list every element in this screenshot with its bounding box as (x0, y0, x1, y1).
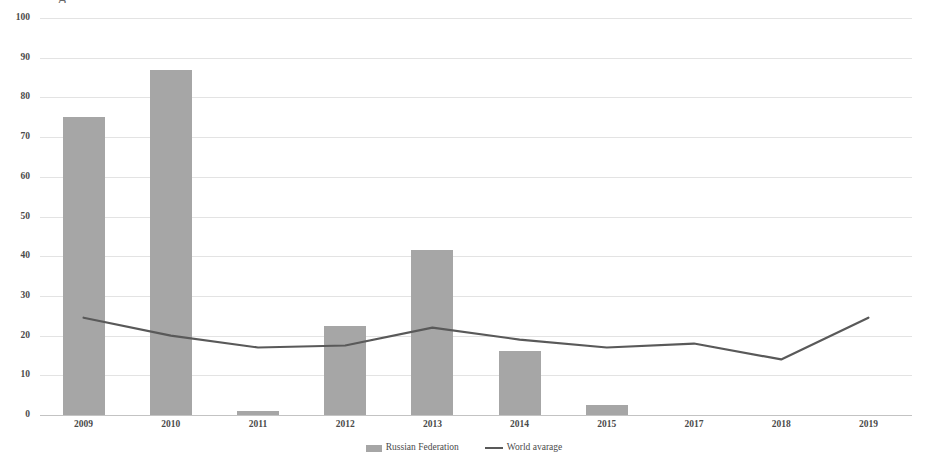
x-tick-label-2009: 2009 (40, 419, 127, 429)
x-tick-label-2011: 2011 (214, 419, 301, 429)
y-axis: 1009080706050403020100 (0, 18, 36, 415)
y-tick-label-10: 10 (0, 369, 30, 379)
legend-label: World avarage (507, 443, 562, 453)
chart-legend: Russian FederationWorld avarage (0, 440, 928, 456)
y-tick-label-40: 40 (0, 250, 30, 260)
y-tick-label-50: 50 (0, 211, 30, 221)
legend-label: Russian Federation (386, 443, 459, 453)
x-tick-label-2018: 2018 (738, 419, 825, 429)
legend-item-world-avarage[interactable]: World avarage (485, 443, 562, 453)
plot-area (40, 18, 912, 415)
y-tick-label-20: 20 (0, 330, 30, 340)
y-tick-label-100: 100 (0, 12, 30, 22)
gridline-0 (40, 415, 912, 416)
x-tick-label-2014: 2014 (476, 419, 563, 429)
legend-line-swatch-icon (485, 447, 503, 449)
x-tick-label-2019: 2019 (825, 419, 912, 429)
y-tick-label-70: 70 (0, 131, 30, 141)
chart-figure: g 1009080706050403020100 200920102011201… (0, 0, 928, 459)
world-avarage-line-path (84, 318, 869, 360)
legend-bar-swatch-icon (366, 445, 382, 452)
y-tick-label-30: 30 (0, 290, 30, 300)
x-tick-label-2015: 2015 (563, 419, 650, 429)
legend-item-russian-federation[interactable]: Russian Federation (366, 443, 459, 453)
x-tick-label-2017: 2017 (650, 419, 737, 429)
y-tick-label-80: 80 (0, 91, 30, 101)
line-series-world-avarage (40, 18, 912, 415)
x-axis: 2009201020112012201320142015201720182019 (40, 419, 912, 435)
cropped-title-text: g (58, 0, 98, 3)
x-tick-label-2013: 2013 (389, 419, 476, 429)
y-tick-label-60: 60 (0, 171, 30, 181)
y-tick-label-90: 90 (0, 52, 30, 62)
x-tick-label-2010: 2010 (127, 419, 214, 429)
y-tick-label-0: 0 (0, 409, 30, 419)
x-tick-label-2012: 2012 (302, 419, 389, 429)
